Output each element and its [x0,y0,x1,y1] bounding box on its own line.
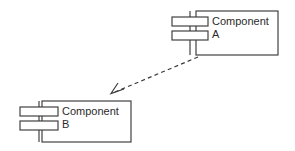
component-b-tab-upper-icon [20,107,58,116]
component-a-tab-upper-icon [172,17,208,26]
dependency-dashed-line[interactable] [115,57,198,92]
component-b[interactable]: Component B [20,101,131,142]
component-b-tab-lower-icon [20,121,58,130]
dependency-open-arrowhead-icon [111,83,124,94]
component-b-label-line2: B [62,118,69,130]
diagram-canvas: Component A Component B [0,0,295,151]
component-a-label-line1: Component [212,15,269,27]
component-a[interactable]: Component A [172,11,278,55]
dependency-a-to-b[interactable] [111,57,198,94]
component-a-tab-lower-icon [172,31,208,40]
uml-component-diagram: Component A Component B [0,0,295,151]
component-b-label-line1: Component [62,105,119,117]
component-a-label-line2: A [212,28,220,40]
